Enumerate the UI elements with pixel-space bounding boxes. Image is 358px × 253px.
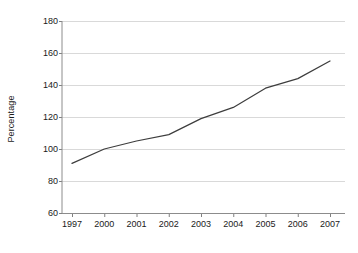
x-axis-tick-label: 2005 xyxy=(255,220,275,229)
x-axis-tick-label: 2003 xyxy=(191,220,211,229)
x-axis-tick-labels: 199720002001200220032004200520062007 xyxy=(0,0,358,253)
line-chart-figure: Percentage 6080100120140160180 199720002… xyxy=(0,0,358,253)
x-axis-tick-label: 2006 xyxy=(288,220,308,229)
x-axis-tick-label: 2000 xyxy=(94,220,114,229)
x-axis-tick-label: 2004 xyxy=(223,220,243,229)
x-axis-tick-label: 2002 xyxy=(159,220,179,229)
x-axis-tick-label: 2007 xyxy=(320,220,340,229)
x-axis-tick-label: 1997 xyxy=(62,220,82,229)
x-axis-tick-label: 2001 xyxy=(126,220,146,229)
